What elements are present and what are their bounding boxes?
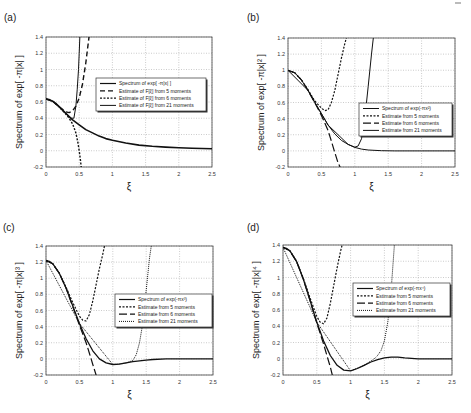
y-tick-label: 0.6 — [35, 308, 43, 314]
x-tick-label: 0 — [44, 171, 47, 177]
y-tick-label: -0.2 — [271, 372, 280, 378]
y-tick-label: 0 — [282, 148, 285, 154]
y-tick-label: 1.4 — [35, 243, 43, 249]
chart-panel-a: 00.511.522.5-0.200.20.40.60.811.21.4ξSpe… — [14, 34, 216, 193]
x-axis-label: ξ — [369, 181, 374, 193]
legend: Spectrum of exp(-πx²)Estimate from 5 mom… — [359, 103, 454, 138]
legend-entry: Estimate from 6 moments — [382, 120, 439, 126]
series-line — [46, 261, 96, 376]
y-tick-label: 0.4 — [272, 323, 280, 329]
y-axis-label: Spectrum of exp[ -π|x|³ ] — [14, 262, 24, 359]
legend-entry: Estimate of F[ξ] from 6 moments — [119, 95, 191, 102]
x-tick-label: 2 — [417, 379, 420, 385]
legend-entry: Spectrum of exp(-πx³) — [138, 296, 187, 302]
y-tick-label: 1.2 — [272, 258, 280, 264]
y-tick-label: -0.2 — [34, 164, 43, 170]
x-tick-label: 0.5 — [318, 171, 326, 177]
legend: Spectrum of exp[ -π|x| ]Estimate of F[ξ]… — [96, 78, 208, 113]
x-axis-label: ξ — [127, 181, 132, 193]
x-tick-label: 2 — [420, 171, 423, 177]
x-tick-label: 2.5 — [208, 171, 216, 177]
legend-entry: Estimate from 21 moments — [138, 318, 198, 324]
y-tick-label: 1.2 — [277, 51, 285, 57]
x-tick-label: 1 — [111, 171, 114, 177]
x-tick-label: 0.5 — [313, 379, 321, 385]
legend-entry: Estimate of F[ξ] from 21 moments — [119, 102, 194, 109]
y-tick-label: 0.2 — [35, 132, 43, 138]
y-tick-label: 0.2 — [277, 132, 285, 138]
x-tick-label: 0 — [286, 171, 289, 177]
y-tick-label: 0.2 — [272, 340, 280, 346]
legend-entry: Estimate from 5 moments — [376, 293, 433, 299]
y-tick-label: 0.4 — [35, 324, 43, 330]
y-tick-label: 0.2 — [35, 340, 43, 346]
legend-entry: Spectrum of exp[ -π|x| ] — [119, 80, 172, 86]
x-axis-label: ξ — [127, 389, 132, 401]
y-tick-label: 0 — [40, 356, 43, 362]
y-tick-label: 1.4 — [277, 35, 285, 41]
x-axis-label: ξ — [365, 389, 370, 401]
x-tick-label: 2.5 — [451, 171, 459, 177]
y-tick-label: 0.6 — [277, 100, 285, 106]
y-tick-label: 1 — [40, 275, 43, 281]
x-tick-label: 1.5 — [381, 379, 389, 385]
y-tick-label: 1.4 — [272, 242, 280, 248]
figure-canvas: 00.511.522.5-0.200.20.40.60.811.21.4ξSpe… — [0, 0, 471, 413]
y-tick-label: 1.2 — [35, 50, 43, 56]
y-axis-label: Spectrum of exp[ -π|x| ] — [14, 55, 24, 149]
x-tick-label: 2 — [177, 171, 180, 177]
series-line — [46, 244, 105, 321]
legend: Spectrum of exp(-πx³)Estimate from 5 mom… — [115, 294, 214, 329]
y-tick-label: 0 — [277, 356, 280, 362]
y-tick-label: 0.8 — [35, 291, 43, 297]
legend-entry: Spectrum of exp(-πx⁴) — [376, 285, 426, 291]
x-tick-label: 1.5 — [142, 379, 150, 385]
corner-mark — [455, 2, 461, 4]
x-tick-label: 2 — [178, 379, 181, 385]
legend-entry: Estimate of F[ξ] from 5 moments — [119, 88, 191, 95]
x-tick-label: 0.5 — [75, 171, 83, 177]
series-line — [283, 247, 332, 375]
chart-panel-b: 00.511.522.5-0.200.20.40.60.811.21.4ξSpe… — [256, 35, 459, 193]
y-tick-label: 0.4 — [35, 115, 43, 121]
y-tick-label: 0.6 — [272, 307, 280, 313]
x-tick-label: 1.5 — [142, 171, 150, 177]
legend-entry: Estimate from 21 moments — [382, 127, 442, 133]
legend-entry: Estimate from 21 moments — [376, 307, 436, 313]
series-line — [283, 243, 343, 323]
y-tick-label: 1.4 — [35, 34, 43, 40]
chart-panel-c: 00.511.522.5-0.200.20.40.60.811.21.4ξSpe… — [14, 243, 217, 401]
y-axis-label: Spectrum of exp[ -π|x|⁴ ] — [251, 261, 261, 359]
legend-entry: Spectrum of exp(-πx²) — [382, 105, 431, 111]
y-tick-label: 0.8 — [277, 83, 285, 89]
y-tick-label: 0.8 — [272, 291, 280, 297]
x-tick-label: 0.5 — [76, 379, 84, 385]
series-line — [46, 35, 80, 118]
y-axis-label: Spectrum of exp[ -π|x|² ] — [256, 54, 266, 151]
y-tick-label: 0.8 — [35, 83, 43, 89]
x-tick-label: 2.5 — [209, 379, 217, 385]
x-tick-label: 1 — [111, 379, 114, 385]
legend: Spectrum of exp(-πx⁴)Estimate from 5 mom… — [353, 283, 452, 318]
legend-entry: Estimate from 6 moments — [376, 300, 433, 306]
y-tick-label: -0.2 — [276, 164, 285, 170]
y-tick-label: 0.4 — [277, 116, 285, 122]
x-tick-label: 1 — [353, 171, 356, 177]
x-tick-label: 0 — [281, 379, 284, 385]
legend-entry: Estimate from 5 moments — [138, 304, 195, 310]
chart-panel-d: 00.511.522.5-0.200.20.40.60.811.21.4ξSpe… — [251, 242, 456, 401]
series-line — [46, 99, 81, 167]
series-line — [288, 36, 347, 110]
y-tick-label: -0.2 — [34, 372, 43, 378]
y-tick-label: 1.2 — [35, 259, 43, 265]
legend-entry: Estimate from 5 moments — [382, 113, 439, 119]
legend-entry: Estimate from 6 moments — [138, 311, 195, 317]
x-tick-label: 1.5 — [384, 171, 392, 177]
x-tick-label: 0 — [44, 379, 47, 385]
y-tick-label: 0 — [40, 148, 43, 154]
x-tick-label: 2.5 — [448, 379, 456, 385]
series-group — [288, 36, 455, 167]
x-tick-label: 1 — [349, 379, 352, 385]
y-tick-label: 1 — [282, 67, 285, 73]
y-tick-label: 1 — [277, 275, 280, 281]
